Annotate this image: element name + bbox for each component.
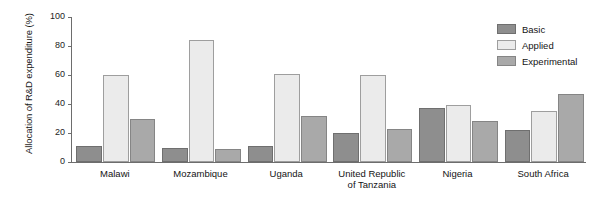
y-axis-tick-label: 40 (55, 98, 65, 108)
bar-basic (76, 146, 102, 162)
bar-basic (505, 130, 531, 162)
bar-applied (446, 105, 472, 162)
x-axis-category-label: Mozambique (158, 168, 244, 179)
legend-item: Applied (497, 38, 577, 52)
y-axis-tick-label: 60 (55, 69, 65, 79)
bar-group (419, 17, 498, 162)
bar-group (248, 17, 327, 162)
y-axis-tick-label: 0 (60, 156, 65, 166)
bar-group (162, 17, 241, 162)
legend-item: Experimental (497, 54, 577, 68)
x-axis-category-label: South Africa (500, 168, 586, 179)
bar-basic (333, 133, 359, 162)
bar-chart: Allocation of R&D expenditure (%) 100806… (0, 0, 609, 204)
bar-applied (531, 111, 557, 162)
legend-item-label: Applied (522, 40, 554, 51)
bar-applied (360, 75, 386, 162)
y-axis-tick-mark (68, 162, 72, 163)
x-axis-category-label: Malawi (72, 168, 158, 179)
bar-experimental (558, 94, 584, 162)
x-axis-category-label: United Republic of Tanzania (329, 168, 415, 190)
legend-item: Basic (497, 22, 577, 36)
bar-group (333, 17, 412, 162)
bar-applied (274, 74, 300, 162)
bar-experimental (130, 119, 156, 163)
bar-applied (103, 75, 129, 162)
legend-swatch-icon (497, 24, 516, 34)
bar-basic (162, 148, 188, 163)
bar-basic (419, 108, 445, 162)
bar-experimental (301, 116, 327, 162)
bar-experimental (472, 121, 498, 162)
legend-swatch-icon (497, 40, 516, 50)
bar-experimental (215, 149, 241, 162)
legend-item-label: Basic (522, 24, 545, 35)
legend-swatch-icon (497, 56, 516, 66)
bar-applied (189, 40, 215, 162)
y-axis-title: Allocation of R&D expenditure (%) (23, 9, 34, 159)
bar-group (76, 17, 155, 162)
y-axis-tick-label: 20 (55, 127, 65, 137)
legend-item-label: Experimental (522, 56, 577, 67)
bar-basic (248, 146, 274, 162)
chart-legend: BasicAppliedExperimental (497, 22, 577, 70)
x-axis-baseline (71, 162, 586, 163)
y-axis-tick-label: 80 (55, 40, 65, 50)
bar-experimental (387, 129, 413, 162)
x-axis-category-label: Uganda (243, 168, 329, 179)
y-axis-tick-label: 100 (50, 11, 65, 21)
x-axis-category-label: Nigeria (415, 168, 501, 179)
